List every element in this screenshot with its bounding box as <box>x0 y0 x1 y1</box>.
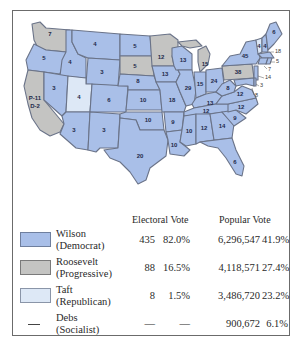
electoral-percent: 82.0% <box>158 234 190 245</box>
taft-swatch <box>20 288 51 303</box>
electoral-votes: 88 <box>135 262 155 273</box>
svg-text:7: 7 <box>268 66 271 72</box>
svg-text:3: 3 <box>260 82 263 88</box>
popular-percent: 41.9% <box>262 234 288 245</box>
roosevelt-swatch <box>20 260 51 275</box>
svg-text:8: 8 <box>255 92 258 98</box>
electoral-vote-header: Electoral Vote <box>132 214 189 225</box>
legend-row-taft: Taft (Republican) 8 1.5% 3,486,720 23.2% <box>12 284 290 314</box>
candidate-name: Debs <box>56 312 78 324</box>
candidate-party: (Republican) <box>56 296 111 308</box>
svg-text:38: 38 <box>235 69 242 75</box>
candidate-name: Roosevelt <box>56 256 98 268</box>
us-electoral-map: 7 5 P-11 D-2 4 3 4 3 4 6 3 3 5 5 8 10 10… <box>0 0 299 200</box>
candidate-party: (Democrat) <box>56 240 104 252</box>
debs-dash-marker <box>28 324 40 325</box>
svg-text:20: 20 <box>137 153 144 159</box>
svg-text:12: 12 <box>158 54 165 60</box>
state-ME <box>266 22 282 50</box>
svg-text:13: 13 <box>207 100 214 106</box>
svg-text:13: 13 <box>180 57 187 63</box>
state-DE <box>254 78 256 86</box>
electoral-percent: 1.5% <box>158 290 190 301</box>
svg-text:12: 12 <box>237 91 244 97</box>
svg-text:14: 14 <box>219 123 226 129</box>
svg-text:13: 13 <box>162 71 169 77</box>
svg-text:24: 24 <box>211 78 218 84</box>
svg-text:10: 10 <box>145 117 152 123</box>
legend-row-wilson: Wilson (Democrat) 435 82.0% 6,296,547 41… <box>12 228 290 258</box>
svg-text:45: 45 <box>242 53 249 59</box>
svg-text:15: 15 <box>202 61 209 67</box>
popular-percent: 23.2% <box>262 290 288 301</box>
popular-votes: 3,486,720 <box>212 290 260 301</box>
svg-text:12: 12 <box>238 104 245 110</box>
popular-votes: 900,672 <box>212 318 260 329</box>
svg-text:10: 10 <box>140 97 147 103</box>
electoral-votes: — <box>135 318 155 329</box>
popular-votes: 4,118,571 <box>212 262 260 273</box>
legend-row-roosevelt: Roosevelt (Progressive) 88 16.5% 4,118,5… <box>12 256 290 286</box>
svg-text:15: 15 <box>197 81 204 87</box>
electoral-percent: 16.5% <box>158 262 190 273</box>
candidate-name: Wilson <box>56 228 86 240</box>
popular-votes: 6,296,547 <box>212 234 260 245</box>
state-FL <box>200 138 244 176</box>
legend-row-debs: Debs (Socialist) — — 900,672 6.1% <box>12 312 290 342</box>
svg-text:14: 14 <box>265 74 271 80</box>
state-SD <box>120 56 154 76</box>
svg-text:12: 12 <box>203 108 210 114</box>
svg-text:5: 5 <box>276 58 279 64</box>
popular-vote-header: Popular Vote <box>219 214 271 225</box>
candidate-party: (Socialist) <box>56 324 99 336</box>
svg-text:12: 12 <box>201 125 208 131</box>
candidate-party: (Progressive) <box>56 268 112 280</box>
candidate-name: Taft <box>56 284 73 296</box>
svg-text:D-2: D-2 <box>30 103 40 109</box>
svg-text:29: 29 <box>185 85 192 91</box>
svg-text:18: 18 <box>275 48 281 54</box>
svg-text:10: 10 <box>186 128 193 134</box>
electoral-percent: — <box>158 318 190 329</box>
svg-text:10: 10 <box>171 142 178 148</box>
electoral-votes: 435 <box>135 234 155 245</box>
state-MI <box>198 46 210 72</box>
electoral-votes: 8 <box>135 290 155 301</box>
svg-text:18: 18 <box>169 97 176 103</box>
popular-percent: 6.1% <box>262 318 288 329</box>
wilson-swatch <box>20 232 51 247</box>
svg-text:P-11: P-11 <box>29 95 42 101</box>
popular-percent: 27.4% <box>262 262 288 273</box>
state-MD <box>234 78 254 86</box>
